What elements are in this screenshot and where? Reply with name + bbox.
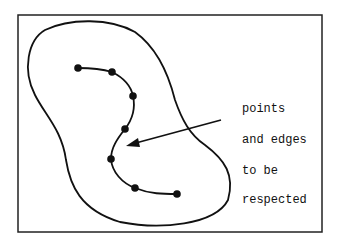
arrow-icon — [126, 120, 221, 147]
label-to-be: to be — [242, 164, 278, 178]
diagram-canvas — [0, 0, 338, 247]
label-and-edges: and edges — [242, 133, 307, 147]
label-points: points — [242, 102, 285, 116]
label-respected: respected — [242, 193, 307, 207]
